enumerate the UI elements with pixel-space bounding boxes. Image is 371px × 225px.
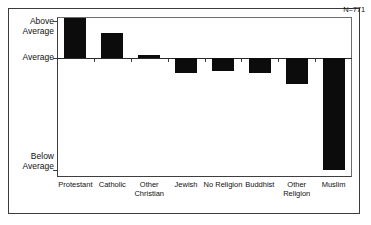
bar-protestant bbox=[64, 18, 86, 58]
bar-no-religion bbox=[212, 58, 234, 71]
figure: Above Average Average Below Average Prot… bbox=[0, 0, 371, 225]
y-tick-label-average: Average bbox=[6, 53, 54, 63]
x-tick-mark bbox=[278, 59, 279, 62]
x-tick-mark bbox=[94, 59, 95, 62]
x-tick-mark bbox=[205, 59, 206, 62]
x-tick-mark bbox=[241, 59, 242, 62]
x-tick-mark bbox=[131, 59, 132, 62]
bar-series bbox=[57, 17, 352, 177]
x-axis-label-muslim: Muslim bbox=[311, 180, 356, 189]
bar-other-christian bbox=[138, 55, 160, 58]
bar-catholic bbox=[101, 33, 123, 58]
bar-other-religion bbox=[286, 58, 308, 84]
bar-muslim bbox=[323, 58, 345, 170]
sample-size-annotation: N=771 bbox=[343, 5, 365, 14]
y-axis-labels: Above Average Average Below Average bbox=[4, 0, 54, 180]
y-tick-label-below-average: Below Average bbox=[6, 152, 54, 171]
bar-jewish bbox=[175, 58, 197, 73]
x-tick-mark bbox=[315, 59, 316, 62]
bar-buddhist bbox=[249, 58, 271, 73]
y-tick-label-above-average: Above Average bbox=[6, 17, 54, 36]
x-tick-mark bbox=[168, 59, 169, 62]
x-axis-labels: ProtestantCatholicOther ChristianJewishN… bbox=[57, 180, 352, 210]
